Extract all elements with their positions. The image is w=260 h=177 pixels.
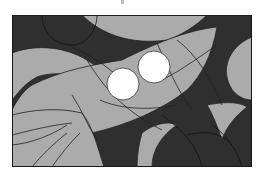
white-circle-right — [138, 51, 170, 83]
top-mark — [121, 0, 124, 4]
stained-glass-image — [12, 15, 252, 167]
stained-glass-svg — [12, 15, 252, 167]
white-circle-left — [107, 68, 139, 100]
